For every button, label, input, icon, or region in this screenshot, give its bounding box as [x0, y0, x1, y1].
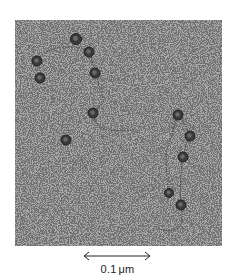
particle-core [92, 70, 97, 75]
scale-bar-label: 0.1μm [0, 263, 233, 275]
electron-micrograph [15, 20, 222, 246]
scale-value: 0.1 [101, 263, 117, 275]
particle-core [178, 202, 183, 207]
particle-core [187, 133, 192, 138]
particle-core [90, 110, 95, 115]
particle-core [166, 190, 170, 194]
particle-core [34, 58, 39, 63]
particle-core [86, 49, 91, 54]
particle-core [63, 137, 68, 142]
scale-unit: μm [119, 263, 135, 275]
scale-bar-arrow [82, 250, 152, 262]
particle-core [37, 75, 42, 80]
particle-core [175, 112, 180, 117]
particle-core [180, 154, 185, 159]
particle-core [73, 36, 78, 41]
